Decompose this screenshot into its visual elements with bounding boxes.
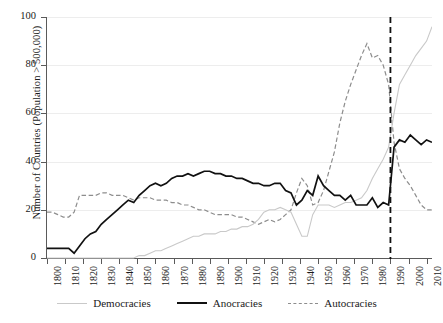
x-tick-mark-1840: [119, 259, 120, 264]
y-tick-label-40: 40: [6, 155, 36, 166]
x-tick-mark-1980: [372, 259, 373, 264]
x-tick-mark-1820: [83, 259, 84, 264]
x-tick-label-1880: 1880: [197, 266, 208, 286]
x-tick-mark-1880: [192, 259, 193, 264]
x-tick-mark-1990: [390, 259, 391, 264]
legend-swatch-democracies: [57, 303, 87, 304]
x-tick-mark-1870: [174, 259, 175, 264]
legend-swatch-autocracies: [288, 303, 318, 304]
x-tick-mark-1890: [210, 259, 211, 264]
legend-label-democracies: Democracies: [93, 297, 150, 309]
x-tick-mark-1850: [137, 259, 138, 264]
legend-swatch-anocracies: [177, 302, 207, 304]
x-tick-mark-1920: [264, 259, 265, 264]
x-tick-label-1990: 1990: [395, 266, 406, 286]
x-tick-mark-1950: [318, 259, 319, 264]
x-tick-mark-2010: [427, 259, 428, 264]
x-tick-mark-1910: [246, 259, 247, 264]
legend-item-anocracies: Anocracies: [177, 297, 262, 309]
x-tick-mark-1800: [47, 259, 48, 264]
x-tick-label-1890: 1890: [215, 266, 226, 286]
x-tick-mark-1810: [65, 259, 66, 264]
x-tick-mark-1830: [101, 259, 102, 264]
x-tick-label-1950: 1950: [323, 266, 334, 286]
x-tick-label-1920: 1920: [269, 266, 280, 286]
x-tick-mark-1970: [354, 259, 355, 264]
x-tick-label-1820: 1820: [88, 266, 99, 286]
x-tick-label-1840: 1840: [124, 266, 135, 286]
series-line-anocracies: [47, 135, 432, 253]
y-tick-label-80: 80: [6, 58, 36, 69]
x-tick-label-2000: 2000: [414, 266, 425, 286]
x-tick-label-1960: 1960: [341, 266, 352, 286]
x-tick-label-1850: 1850: [142, 266, 153, 286]
x-tick-label-1940: 1940: [305, 266, 316, 286]
y-tick-label-60: 60: [6, 106, 36, 117]
x-tick-mark-1940: [300, 259, 301, 264]
legend-item-autocracies: Autocracies: [288, 297, 377, 309]
series-line-democracies: [47, 27, 432, 258]
x-tick-label-1830: 1830: [106, 266, 117, 286]
x-tick-mark-1960: [336, 259, 337, 264]
y-tick-label-0: 0: [6, 251, 36, 262]
x-tick-label-2010: 2010: [432, 266, 443, 286]
y-tick-label-20: 20: [6, 203, 36, 214]
x-tick-label-1930: 1930: [287, 266, 298, 286]
x-tick-mark-1860: [155, 259, 156, 264]
x-tick-label-1970: 1970: [359, 266, 370, 286]
legend-item-democracies: Democracies: [57, 297, 150, 309]
x-tick-label-1900: 1900: [233, 266, 244, 286]
legend-label-anocracies: Anocracies: [213, 297, 262, 309]
x-tick-label-1810: 1810: [70, 266, 81, 286]
x-tick-label-1860: 1860: [160, 266, 171, 286]
y-tick-label-100: 100: [6, 10, 36, 21]
x-tick-label-1910: 1910: [251, 266, 262, 286]
series-line-autocracies: [47, 44, 432, 225]
x-tick-label-1800: 1800: [52, 266, 63, 286]
x-tick-mark-2000: [409, 259, 410, 264]
x-tick-mark-1930: [282, 259, 283, 264]
x-tick-label-1870: 1870: [179, 266, 190, 286]
x-tick-mark-1900: [228, 259, 229, 264]
x-tick-label-1980: 1980: [377, 266, 388, 286]
chart-legend: Democracies Anocracies Autocracies: [0, 297, 434, 309]
chart-plot-area: [47, 17, 432, 259]
legend-label-autocracies: Autocracies: [324, 297, 377, 309]
